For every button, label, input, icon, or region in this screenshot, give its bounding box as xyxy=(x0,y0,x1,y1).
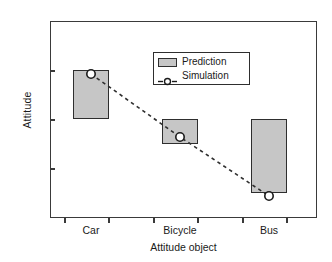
legend-label-simulation: Simulation xyxy=(182,71,229,81)
simulation-marker-bus[interactable] xyxy=(265,192,273,200)
legend-item-simulation[interactable]: Simulation xyxy=(158,69,245,83)
chart-legend[interactable]: Prediction Simulation xyxy=(153,52,250,85)
legend-label-prediction: Prediction xyxy=(182,57,226,67)
x-tick-label-bicycle: Bicycle xyxy=(140,224,220,236)
chart-figure: Attitude 20 10 0 -10 -20 Prediction xyxy=(0,0,332,262)
simulation-series xyxy=(0,0,332,262)
simulation-marker-bicycle[interactable] xyxy=(176,133,184,141)
simulation-marker-car[interactable] xyxy=(87,70,95,78)
x-tick-label-bus: Bus xyxy=(229,224,309,236)
legend-item-prediction[interactable]: Prediction xyxy=(158,55,245,69)
legend-dashed-circle-icon xyxy=(158,72,177,81)
x-axis-title: Attitude object xyxy=(50,241,317,253)
legend-swatch-icon xyxy=(158,58,177,67)
x-tick-label-car: Car xyxy=(51,224,131,236)
